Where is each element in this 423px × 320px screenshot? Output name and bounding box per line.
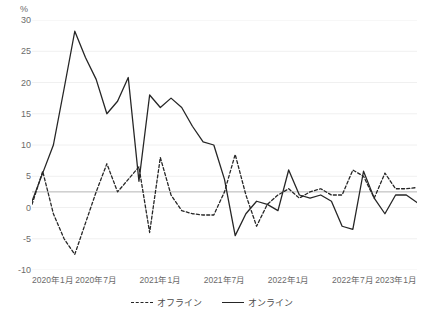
y-axis-tick-label: 10 [5,140,31,150]
x-axis-tick-label: 2021年1月 [140,273,182,285]
legend-item-online: オンライン [222,296,293,309]
legend-item-offline: オフライン [131,296,202,309]
y-axis-tick-label: -5 [5,234,31,244]
chart-legend: オフライン オンライン [0,296,423,309]
y-axis-tick-label: 15 [5,109,31,119]
y-axis-tick-label: -10 [5,265,31,275]
y-axis-tick-labels: -10-5051015202530 [0,0,31,320]
x-axis-tick-label: 2022年1月 [268,273,310,285]
series-line-online [32,31,417,235]
gridlines [32,20,417,270]
y-axis-tick-label: 0 [5,203,31,213]
legend-label-offline: オフライン [157,296,202,309]
x-axis-tick-label: 2023年1月 [375,273,417,285]
y-axis-tick-label: 20 [5,78,31,88]
plot-svg [32,20,417,270]
legend-swatch-dashed-icon [131,302,153,303]
series-line-offline [32,154,417,254]
x-axis-tick-labels: 2020年1月2020年7月2021年1月2021年7月2022年1月2022年… [32,273,417,289]
legend-label-online: オンライン [248,296,293,309]
x-axis-tick-label: 2020年1月 [32,273,74,285]
plot-area [32,20,417,270]
x-axis-tick-label: 2020年7月 [75,273,117,285]
line-chart: % -10-5051015202530 2020年1月2020年7月2021年1… [0,0,423,320]
y-axis-tick-label: 30 [5,15,31,25]
x-axis-tick-label: 2021年7月 [204,273,246,285]
x-axis-tick-label: 2022年7月 [332,273,374,285]
y-axis-tick-label: 5 [5,171,31,181]
series-lines [32,31,417,254]
y-axis-tick-label: 25 [5,46,31,56]
legend-swatch-solid-icon [222,302,244,303]
